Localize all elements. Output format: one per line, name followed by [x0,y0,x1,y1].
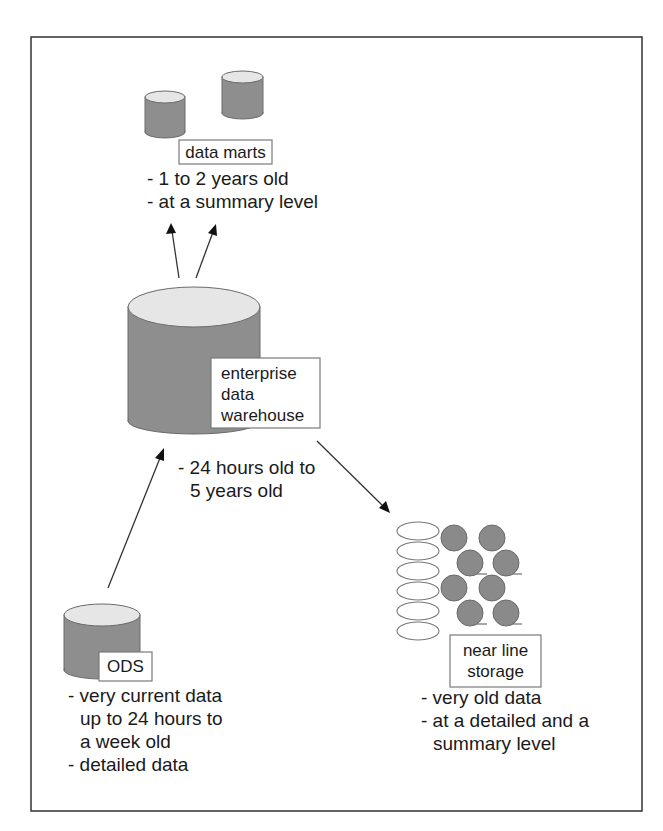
near-line-label-box: near line storage [450,635,541,687]
ods-note-2: up to 24 hours to [80,708,223,729]
data-marts-note-1: - 1 to 2 years old [147,168,289,189]
ods-label: ODS [107,657,144,676]
arrow-edw-to-data-mart-2 [196,224,217,278]
arrow-edw-to-near-line [317,441,390,513]
data-mart-cylinder-2 [222,71,263,119]
edw-note-1: - 24 hours old to [178,457,315,478]
edw-label-line-3: warehouse [220,406,304,425]
disk-platters-icon [441,525,522,626]
data-marts-label: data marts [185,143,265,162]
edw-label-line-2: data [221,385,255,404]
ods-label-box: ODS [99,652,152,681]
ods-note-1: - very current data [68,685,223,706]
near-line-note-1: - very old data [421,687,542,708]
tape-stack-icon [397,522,439,640]
diagram-canvas: data marts - 1 to 2 years old - at a sum… [0,0,663,831]
arrow-ods-to-edw [108,448,164,588]
data-mart-cylinder-1 [145,91,185,138]
data-marts-note-2: - at a summary level [147,191,318,212]
ods-note-3: a week old [80,731,171,752]
arrow-edw-to-data-mart-1 [166,223,179,278]
near-line-label-line-2: storage [467,662,524,681]
near-line-label-line-1: near line [463,641,528,660]
edw-label-box: enterprise data warehouse [211,358,320,428]
edw-label-line-1: enterprise [221,364,297,383]
edw-note-2: 5 years old [190,480,283,501]
near-line-note-3: summary level [433,733,555,754]
data-marts-label-box: data marts [179,140,272,164]
near-line-note-2: - at a detailed and a [421,710,589,731]
ods-note-4: - detailed data [68,754,189,775]
